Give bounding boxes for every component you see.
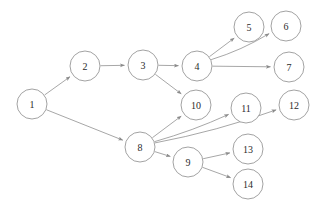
edge-4-to-5 [209, 38, 234, 57]
nodes-layer: 1234567891011121314 [17, 11, 309, 199]
graph-node-7[interactable]: 7 [274, 52, 304, 82]
graph-canvas: 1234567891011121314 [0, 0, 318, 207]
node-label-13: 13 [243, 144, 253, 155]
node-label-2: 2 [83, 61, 88, 72]
node-label-7: 7 [287, 62, 292, 73]
node-label-10: 10 [191, 100, 201, 111]
edge-1-to-2 [45, 77, 70, 95]
graph-node-13[interactable]: 13 [233, 134, 263, 164]
graph-node-4[interactable]: 4 [182, 51, 212, 81]
node-label-12: 12 [289, 100, 299, 111]
node-label-9: 9 [186, 157, 191, 168]
graph-node-8[interactable]: 8 [125, 132, 155, 162]
graph-node-3[interactable]: 3 [128, 50, 158, 80]
graph-node-9[interactable]: 9 [173, 147, 203, 177]
graph-node-2[interactable]: 2 [70, 51, 100, 81]
graph-node-14[interactable]: 14 [233, 169, 263, 199]
node-label-14: 14 [243, 179, 253, 190]
directed-graph-svg: 1234567891011121314 [0, 0, 318, 207]
node-label-3: 3 [141, 60, 146, 71]
graph-node-6[interactable]: 6 [271, 11, 301, 41]
edge-8-to-9 [155, 152, 171, 157]
node-label-8: 8 [138, 142, 143, 153]
graph-node-11[interactable]: 11 [231, 93, 261, 123]
node-label-11: 11 [241, 103, 251, 114]
graph-node-10[interactable]: 10 [181, 90, 211, 120]
edge-9-to-13 [203, 153, 230, 159]
edge-9-to-14 [203, 167, 231, 177]
edge-3-to-10 [155, 74, 181, 94]
node-label-4: 4 [195, 61, 200, 72]
graph-node-12[interactable]: 12 [279, 90, 309, 120]
edge-4-to-7 [213, 66, 271, 67]
graph-node-5[interactable]: 5 [234, 12, 264, 42]
edge-1-to-8 [46, 110, 122, 140]
graph-node-1[interactable]: 1 [17, 89, 47, 119]
node-label-1: 1 [30, 99, 35, 110]
node-label-5: 5 [247, 22, 252, 33]
node-label-6: 6 [284, 21, 289, 32]
